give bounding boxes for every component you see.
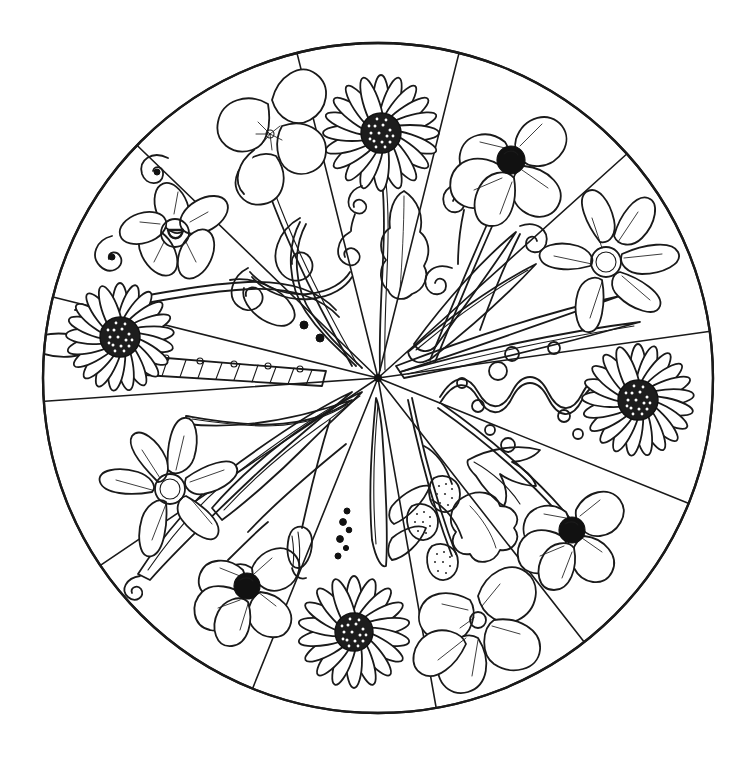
mandala-center-hub <box>374 374 382 382</box>
daisy-center-right <box>618 380 658 420</box>
anemone-center-rightlower <box>559 517 585 543</box>
anemone-center-topright <box>497 146 525 174</box>
mandala-page: Floral Mandala Coloring Page Circular ma… <box>0 0 746 772</box>
ink-dot <box>316 334 324 342</box>
daisy-center-top <box>361 113 401 153</box>
daisy-center-bottom <box>335 613 373 651</box>
ink-dot <box>300 321 308 329</box>
mandala-artwork <box>0 0 746 772</box>
daisy-center-left <box>100 317 140 357</box>
anemone-center-bottomleft <box>234 573 260 599</box>
